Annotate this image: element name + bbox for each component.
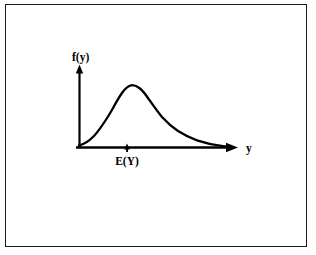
expected-value-marker [124,144,130,153]
y-axis [76,65,83,148]
y-axis-label: f(y) [72,51,89,64]
x-axis-label: y [246,142,252,155]
y-axis-arrowhead-icon [76,65,83,74]
marker-stem [126,148,128,152]
expected-value-label: E(Y) [115,155,139,168]
figure-frame: f(y) y E(Y) [0,0,316,255]
density-curve [79,85,232,147]
density-plot: f(y) y E(Y) [0,0,316,255]
